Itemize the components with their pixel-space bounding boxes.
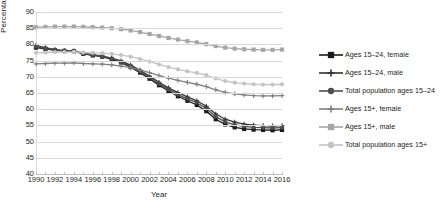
legend-marker-icon — [318, 85, 344, 97]
y-tick-label: 55 — [12, 121, 34, 129]
legend: Ages 15–24, femaleAges 15–24, maleTotal … — [318, 46, 445, 154]
y-tick-label: 85 — [12, 24, 34, 32]
x-tick-mark — [102, 172, 103, 175]
x-tick-mark — [121, 172, 122, 175]
x-tick-mark — [282, 172, 283, 175]
x-tick-mark — [131, 172, 132, 175]
legend-item[interactable]: Ages 15+, male — [318, 118, 445, 136]
x-tick-label: 2016 — [274, 176, 291, 184]
y-tick-label: 45 — [12, 154, 34, 162]
x-tick-label: 1998 — [103, 176, 120, 184]
gridline — [36, 44, 282, 45]
x-tick-mark — [168, 172, 169, 175]
y-tick-label: 75 — [12, 57, 34, 65]
x-tick-mark — [93, 172, 94, 175]
x-tick-label: 2000 — [122, 176, 139, 184]
x-axis-tick-labels: 1990199219941996199820002002200420062008… — [36, 176, 282, 188]
legend-label: Ages 15–24, male — [344, 69, 403, 77]
x-axis-title: Year — [36, 190, 282, 199]
x-tick-mark — [263, 172, 264, 175]
x-tick-mark — [112, 172, 113, 175]
x-tick-mark — [83, 172, 84, 175]
x-tick-mark — [216, 172, 217, 175]
gridline — [36, 142, 282, 143]
x-tick-mark — [225, 172, 226, 175]
x-tick-mark — [206, 172, 207, 175]
legend-marker-icon — [318, 121, 344, 133]
x-tick-label: 2010 — [217, 176, 234, 184]
x-tick-mark — [55, 172, 56, 175]
gridline — [36, 28, 282, 29]
x-tick-label: 2002 — [141, 176, 158, 184]
x-tick-label: 1994 — [66, 176, 83, 184]
legend-item[interactable]: Total population ages 15+ — [318, 136, 445, 154]
x-tick-mark — [178, 172, 179, 175]
x-tick-label: 1996 — [84, 176, 101, 184]
legend-marker-icon — [318, 139, 344, 151]
series-0 — [34, 46, 284, 133]
series-2 — [34, 45, 284, 131]
legend-marker-icon — [318, 67, 344, 79]
gridline — [36, 158, 282, 159]
legend-marker-icon — [318, 49, 344, 61]
x-tick-mark — [159, 172, 160, 175]
gridline — [36, 109, 282, 110]
legend-item[interactable]: Ages 15–24, male — [318, 64, 445, 82]
y-tick-label: 60 — [12, 105, 34, 113]
plot-area — [36, 12, 282, 174]
x-tick-label: 2008 — [198, 176, 215, 184]
gridline — [36, 77, 282, 78]
gridline — [36, 12, 282, 13]
legend-label: Total population ages 15–24 — [344, 87, 435, 95]
legend-item[interactable]: Total population ages 15–24 — [318, 82, 445, 100]
x-tick-mark — [36, 172, 37, 175]
x-tick-mark — [187, 172, 188, 175]
x-tick-mark — [64, 172, 65, 175]
legend-label: Ages 15+, male — [344, 123, 395, 131]
x-tick-label: 1990 — [28, 176, 45, 184]
legend-item[interactable]: Ages 15+, female — [318, 100, 445, 118]
legend-label: Ages 15+, female — [344, 105, 401, 113]
gridline — [36, 61, 282, 62]
legend-marker-icon — [318, 103, 344, 115]
y-axis-title: Percentage — [0, 0, 8, 62]
y-tick-label: 70 — [12, 73, 34, 81]
y-tick-label: 50 — [12, 138, 34, 146]
chart-container: Percentage 9085807570656055504540 199019… — [0, 0, 445, 211]
gridline — [36, 93, 282, 94]
x-tick-mark — [273, 172, 274, 175]
x-tick-label: 2006 — [179, 176, 196, 184]
y-tick-label: 80 — [12, 40, 34, 48]
x-tick-label: 2014 — [255, 176, 272, 184]
y-tick-label: 65 — [12, 89, 34, 97]
x-tick-mark — [244, 172, 245, 175]
x-tick-label: 2004 — [160, 176, 177, 184]
x-tick-mark — [74, 172, 75, 175]
legend-item[interactable]: Ages 15–24, female — [318, 46, 445, 64]
x-tick-label: 2012 — [236, 176, 253, 184]
x-tick-mark — [235, 172, 236, 175]
x-tick-mark — [45, 172, 46, 175]
legend-label: Total population ages 15+ — [344, 141, 427, 149]
x-tick-mark — [140, 172, 141, 175]
gridline — [36, 125, 282, 126]
x-tick-label: 1992 — [47, 176, 64, 184]
x-tick-mark — [197, 172, 198, 175]
legend-label: Ages 15–24, female — [344, 51, 409, 59]
x-tick-mark — [254, 172, 255, 175]
y-tick-label: 90 — [12, 8, 34, 16]
x-tick-mark — [150, 172, 151, 175]
